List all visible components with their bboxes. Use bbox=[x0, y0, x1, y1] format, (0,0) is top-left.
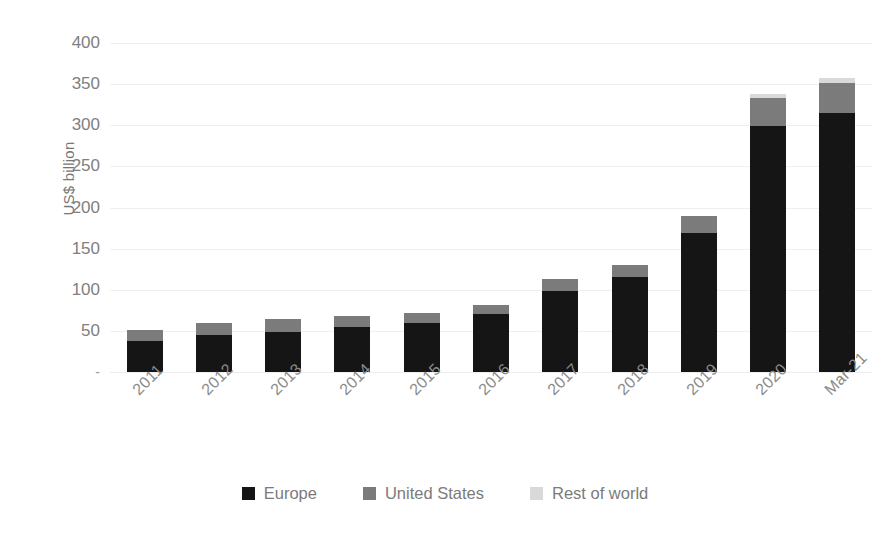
bar-segment-europe[interactable] bbox=[542, 291, 578, 372]
y-tick-label-50: 50 bbox=[48, 321, 100, 341]
bar-segment-europe[interactable] bbox=[681, 233, 717, 372]
bar-segment-united-states[interactable] bbox=[681, 216, 717, 233]
bar-group-mar-21[interactable] bbox=[819, 78, 855, 372]
y-tick-label-300: 300 bbox=[48, 115, 100, 135]
legend-swatch-united-states bbox=[363, 487, 376, 500]
bar-segment-united-states[interactable] bbox=[334, 316, 370, 327]
chart-legend: EuropeUnited StatesRest of world bbox=[0, 484, 890, 503]
bar-segment-united-states[interactable] bbox=[265, 319, 301, 331]
bar-segment-europe[interactable] bbox=[612, 277, 648, 372]
bar-segment-united-states[interactable] bbox=[473, 305, 509, 315]
legend-swatch-rest-of-world bbox=[530, 487, 543, 500]
bar-group-2018[interactable] bbox=[612, 265, 648, 372]
legend-item-rest-of-world[interactable]: Rest of world bbox=[530, 484, 648, 503]
y-tick-label-400: 400 bbox=[48, 33, 100, 53]
y-tick-label-350: 350 bbox=[48, 74, 100, 94]
bar-group-2019[interactable] bbox=[681, 216, 717, 372]
bar-segment-united-states[interactable] bbox=[196, 323, 232, 335]
bar-segment-europe[interactable] bbox=[750, 126, 786, 372]
bar-group-2020[interactable] bbox=[750, 94, 786, 372]
bars-layer bbox=[110, 43, 872, 372]
legend-item-united-states[interactable]: United States bbox=[363, 484, 484, 503]
y-tick-label-0: - bbox=[48, 364, 100, 380]
bar-segment-united-states[interactable] bbox=[404, 313, 440, 324]
bar-segment-united-states[interactable] bbox=[127, 330, 163, 341]
plot-area bbox=[110, 43, 872, 372]
bar-segment-europe[interactable] bbox=[819, 113, 855, 372]
stacked-bar-chart: US$ billion -50100150200250300350400 201… bbox=[0, 0, 890, 537]
bar-segment-united-states[interactable] bbox=[612, 265, 648, 277]
legend-label: United States bbox=[385, 484, 484, 503]
legend-label: Rest of world bbox=[552, 484, 648, 503]
y-tick-label-150: 150 bbox=[48, 239, 100, 259]
bar-segment-united-states[interactable] bbox=[750, 98, 786, 126]
y-tick-label-100: 100 bbox=[48, 280, 100, 300]
bar-group-2017[interactable] bbox=[542, 279, 578, 372]
bar-segment-united-states[interactable] bbox=[819, 83, 855, 113]
y-axis-tick-labels: -50100150200250300350400 bbox=[40, 43, 100, 372]
legend-label: Europe bbox=[264, 484, 317, 503]
legend-swatch-europe bbox=[242, 487, 255, 500]
y-tick-label-200: 200 bbox=[48, 198, 100, 218]
y-tick-label-250: 250 bbox=[48, 156, 100, 176]
bar-segment-united-states[interactable] bbox=[542, 279, 578, 291]
legend-item-europe[interactable]: Europe bbox=[242, 484, 317, 503]
x-axis-tick-labels: 2011201220132014201520162017201820192020… bbox=[110, 378, 872, 468]
